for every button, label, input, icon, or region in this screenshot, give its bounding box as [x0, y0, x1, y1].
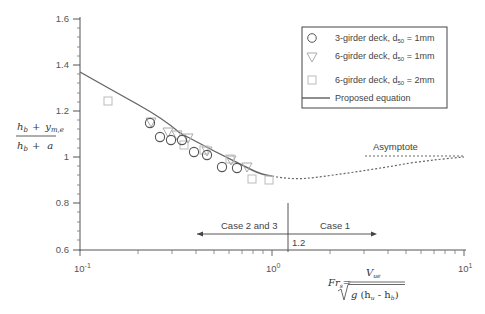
case-1-label: Case 1: [320, 220, 350, 231]
square-marker: [265, 176, 273, 184]
circle-marker: [155, 132, 164, 141]
circle-marker: [232, 163, 241, 172]
case-2-and-3-label: Case 2 and 3: [221, 220, 278, 231]
y-axis: 1.6 1.4 1.2 1 0.8 0.6: [56, 13, 80, 255]
y-tick-label: 1.2: [56, 105, 69, 116]
chart: 1.6 1.4 1.2 1 0.8 0.6 10-1 100 101 hb+ym…: [0, 0, 485, 314]
x-tick-label: 10-1: [74, 262, 91, 274]
y-tick-label: 0.8: [56, 197, 69, 208]
x-tick-label: 100: [266, 262, 281, 274]
y-tick-label: 1.6: [56, 13, 69, 24]
legend: 3-girder deck, d50 = 1mm 6-girder deck, …: [302, 27, 447, 108]
proposed-equation-line: [80, 72, 272, 176]
circle-marker: [166, 135, 175, 144]
y-axis-label: hb+ym,e hb+a: [16, 121, 64, 153]
x-axis: 10-1 100 101: [74, 250, 473, 274]
proposed-equation-extrapolation: [272, 157, 464, 179]
svg-text:hb+a: hb+a: [17, 140, 53, 153]
circle-marker: [177, 135, 186, 144]
svg-text:g(hu - hb): g(hu - hb): [351, 289, 399, 301]
legend-label: Proposed equation: [335, 93, 411, 103]
legend-label: 6-girder deck, d50 = 1mm: [335, 51, 434, 62]
x-axis-label: Frs= Vue g(hu - hb): [327, 267, 405, 301]
circle-marker: [217, 162, 226, 171]
legend-label: 6-girder deck, d50 = 2mm: [335, 75, 434, 86]
y-tick-label: 1: [64, 151, 69, 162]
series-3-girder-1mm: [145, 118, 241, 172]
x-tick-label: 101: [458, 262, 473, 274]
svg-text:hb+ym,e: hb+ym,e: [17, 121, 64, 134]
y-tick-label: 0.6: [56, 244, 69, 255]
asymptote-label: Asymptote: [373, 141, 418, 152]
case-annotation: Case 2 and 3 Case 1 1.2: [197, 203, 377, 252]
svg-text:Vue: Vue: [366, 267, 381, 279]
y-tick-label: 1.4: [56, 59, 69, 70]
divider-value-label: 1.2: [292, 237, 305, 248]
legend-label: 3-girder deck, d50 = 1mm: [335, 33, 434, 44]
square-marker: [104, 97, 112, 105]
circle-marker: [189, 147, 198, 156]
square-marker: [248, 175, 256, 183]
